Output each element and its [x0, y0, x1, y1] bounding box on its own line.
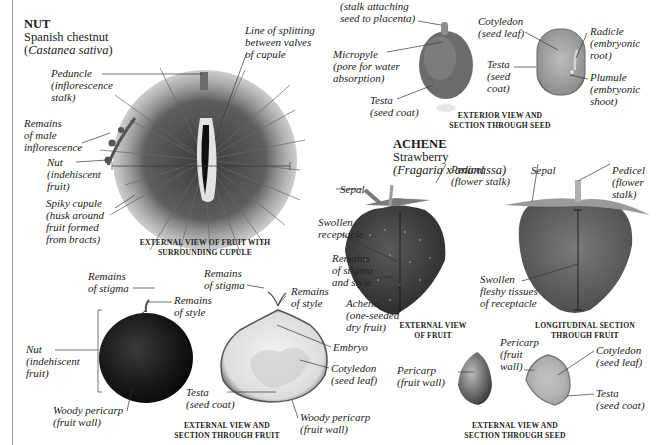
label-splitting-line: Line of splitting between valves of cupu…: [245, 24, 315, 60]
label-cotyledon-achene: Cotyledon (seed leaf): [596, 344, 642, 368]
label-pedicel-section: Pedicel (flower stalk): [612, 164, 645, 200]
chestnut-burr-illustration: [100, 68, 305, 255]
label-micropyle: Micropyle (pore for water absorption): [333, 48, 400, 84]
label-stigma-right: Remains of stigma: [204, 267, 245, 291]
label-nut-fruit: Nut (indehiscent fruit): [26, 343, 80, 379]
label-testa-seed: Testa (seed coat): [487, 58, 510, 94]
label-pericarp-ext: Pericarp (fruit wall): [397, 364, 445, 388]
label-stigma-style: Remains of stigma and style: [332, 252, 373, 288]
label-pericarp-section: Pericarp (fruit wall): [500, 336, 539, 372]
label-stigma-left: Remains of stigma: [88, 270, 129, 294]
label-nut-cupule: Nut (indehiscent fruit): [47, 156, 101, 192]
label-radicle: Radicle (embryonic root): [590, 25, 640, 61]
page-margin-rule: [12, 0, 13, 445]
label-style-right: Remains of style: [291, 285, 329, 309]
label-spiky-cupule: Spiky cupule (husk around fruit formed f…: [46, 197, 104, 245]
label-woody-pericarp-left: Woody pericarp (fruit wall): [53, 404, 123, 428]
label-male-inflorescence: Remains of male inflorescence: [24, 117, 82, 153]
label-cotyledon-nut: Cotyledon (seed leaf): [331, 362, 377, 386]
label-embryo: Embryo: [333, 341, 368, 353]
label-testa-achene: Testa (seed coat): [596, 387, 645, 411]
nut-scientific-name: (Castanea sativa): [24, 44, 113, 57]
label-testa-nut: Testa (seed coat): [186, 386, 235, 410]
label-style-left: Remains of style: [174, 294, 212, 318]
nut-heading: NUT Spanish chestnut (Castanea sativa): [24, 18, 113, 57]
label-sepal-section: Sepal: [531, 164, 555, 176]
label-peduncle: Peduncle (inflorescence stalk): [51, 67, 113, 103]
caption-achene-seed: EXTERNAL VIEW AND SECTION THROUGH SEED: [455, 421, 575, 441]
seed-exterior-illustration: [419, 22, 473, 112]
caption-fruit: EXTERNAL VIEW AND SECTION THROUGH FRUIT: [172, 421, 282, 441]
label-achene: Achene (one-seeded dry fruit): [346, 297, 399, 333]
label-cotyledon-seed: Cotyledon (seed leaf): [478, 15, 524, 39]
label-woody-pericarp-right: Woody pericarp (fruit wall): [300, 411, 370, 435]
label-receptacle: Swollen receptacle: [318, 216, 363, 240]
label-pedicel-ext: Pedicel (flower stalk): [451, 163, 510, 187]
label-testa-ext: Testa (seed coat): [370, 94, 419, 118]
label-plumule: Plumule (embryonic shoot): [590, 71, 640, 107]
label-funicle: (stalk attaching seed to placenta): [340, 0, 415, 24]
caption-seed: EXTERIOR VIEW AND SECTION THROUGH SEED: [440, 111, 560, 131]
strawberry-exterior-illustration: [345, 185, 445, 315]
label-sepal-ext: Sepal: [340, 183, 364, 195]
caption-strawberry-section: LONGITUDINAL SECTION THROUGH FRUIT: [525, 321, 645, 341]
caption-strawberry-ext: EXTERNAL VIEW OF FRUIT: [393, 321, 473, 341]
label-fleshy-tissues: Swollen fleshy tissues of receptacle: [480, 273, 538, 309]
achene-exterior-illustration: [458, 352, 492, 405]
caption-cupule: EXTERNAL VIEW OF FRUIT WITH SURROUNDING …: [130, 238, 280, 258]
seed-section-illustration: [537, 29, 585, 95]
